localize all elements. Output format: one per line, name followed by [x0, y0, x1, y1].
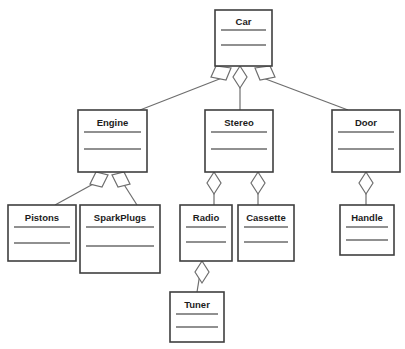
- aggregation-diamond-engine-sparkplugs[interactable]: [112, 172, 130, 187]
- class-node-pistons[interactable]: Pistons: [8, 205, 76, 261]
- class-name-car: Car: [236, 16, 252, 27]
- aggregation-diamond-radio-tuner[interactable]: [195, 261, 209, 283]
- aggregation-diamond-car-engine[interactable]: [211, 66, 231, 80]
- class-node-door[interactable]: Door: [332, 110, 400, 172]
- diagram-canvas: Car Engine Stereo Door Pisto: [0, 0, 405, 349]
- aggregation-diamond-stereo-radio[interactable]: [207, 172, 221, 194]
- class-name-tuner: Tuner: [184, 299, 210, 310]
- aggregation-diamond-car-door[interactable]: [255, 66, 275, 80]
- class-name-radio: Radio: [193, 212, 220, 223]
- link-car-door[interactable]: [263, 78, 348, 110]
- class-name-handle: Handle: [351, 212, 383, 223]
- class-node-sparkplugs[interactable]: SparkPlugs: [80, 205, 160, 273]
- class-name-cassette: Cassette: [246, 212, 286, 223]
- class-node-cassette[interactable]: Cassette: [238, 205, 294, 261]
- aggregation-diamond-car-stereo[interactable]: [233, 66, 247, 88]
- class-name-door: Door: [355, 117, 377, 128]
- aggregation-diamond-door-handle[interactable]: [359, 172, 373, 194]
- class-name-stereo: Stereo: [224, 117, 254, 128]
- class-node-engine[interactable]: Engine: [78, 110, 147, 172]
- aggregation-diamond-engine-pistons[interactable]: [90, 172, 108, 187]
- uml-class-diagram: Car Engine Stereo Door Pisto: [0, 0, 405, 349]
- class-node-car[interactable]: Car: [215, 10, 272, 66]
- class-name-engine: Engine: [97, 117, 129, 128]
- class-node-tuner[interactable]: Tuner: [170, 292, 224, 342]
- class-node-handle[interactable]: Handle: [340, 205, 394, 255]
- class-node-radio[interactable]: Radio: [180, 205, 232, 261]
- class-node-stereo[interactable]: Stereo: [205, 110, 273, 172]
- class-name-pistons: Pistons: [25, 212, 59, 223]
- link-engine-pistons[interactable]: [55, 183, 95, 205]
- aggregation-diamond-stereo-cassette[interactable]: [251, 172, 265, 194]
- class-name-sparkplugs: SparkPlugs: [94, 212, 146, 223]
- link-engine-sparkplugs[interactable]: [123, 183, 137, 205]
- link-car-engine[interactable]: [140, 78, 222, 110]
